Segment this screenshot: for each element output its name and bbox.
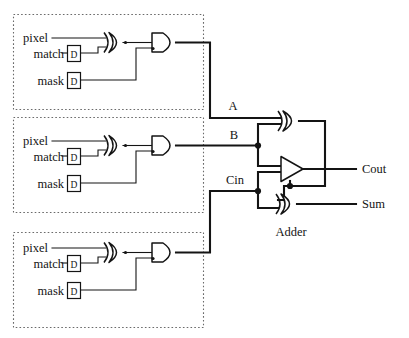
xor-gate-bottom (104, 243, 117, 263)
majority-gate-adder (281, 157, 303, 182)
label-bot-pixel: pixel (23, 241, 49, 255)
dot-top-xor-out (124, 41, 127, 44)
dot-maj-select (287, 183, 293, 189)
figure-canvas: D D pixel match mask D D pixel match mas… (0, 0, 409, 338)
d-register-bot-match-label: D (71, 260, 78, 270)
label-net-a: A (228, 99, 237, 113)
label-mid-pixel: pixel (23, 134, 49, 148)
wire-b-to-maj (258, 146, 281, 167)
d-register-mid-match-label: D (71, 153, 78, 163)
label-mid-mask: mask (38, 177, 65, 191)
dashed-box-block-middle (14, 118, 204, 213)
label-top-pixel: pixel (23, 31, 49, 45)
dot-bot-xor-out (124, 251, 127, 254)
label-top-match: match (33, 47, 64, 61)
dot-mid-and-in (151, 150, 154, 153)
label-net-cin: Cin (226, 173, 245, 187)
dashed-box-block-top (14, 15, 204, 110)
label-net-b: B (230, 128, 238, 142)
wire-top-match-to-xor (80, 47, 106, 53)
label-output-cout: Cout (362, 162, 387, 176)
wire-cin-to-xor-bottom (258, 191, 278, 208)
wire-cin-to-maj (258, 172, 281, 191)
xor-gate-adder-top (278, 111, 292, 131)
and-gate-top (152, 33, 170, 52)
block-bottom: D D pixel match mask (23, 241, 170, 299)
xor-gate-middle (104, 136, 117, 156)
label-output-sum: Sum (362, 197, 385, 211)
label-mid-match: match (33, 150, 64, 164)
wire-bot-match-to-xor (80, 257, 106, 263)
circuit-diagram: D D pixel match mask D D pixel match mas… (0, 0, 409, 338)
wire-net-cin (176, 191, 258, 253)
block-middle: D D pixel match mask (23, 134, 170, 192)
wire-b-to-xor-top (258, 124, 280, 146)
wire-mid-match-to-xor (80, 150, 106, 156)
and-gate-middle (152, 136, 170, 155)
dot-top-and-in (151, 47, 154, 50)
xor-gate-top (104, 33, 117, 53)
label-bot-match: match (33, 257, 64, 271)
d-register-top-match-label: D (71, 50, 78, 60)
dot-bot-and-in (151, 257, 154, 260)
d-register-mid-mask-label: D (71, 180, 78, 190)
adder-subcircuit: Cout Sum Adder (255, 111, 387, 239)
and-gate-bottom (152, 243, 170, 262)
block-top: D D pixel match mask (23, 31, 170, 89)
dot-mid-xor-out (124, 144, 127, 147)
label-adder: Adder (275, 225, 307, 239)
d-register-top-mask-label: D (71, 77, 78, 87)
d-register-bot-mask-label: D (71, 287, 78, 297)
label-top-mask: mask (38, 74, 65, 88)
label-bot-mask: mask (38, 284, 65, 298)
xor-gate-adder-bottom (276, 194, 290, 214)
